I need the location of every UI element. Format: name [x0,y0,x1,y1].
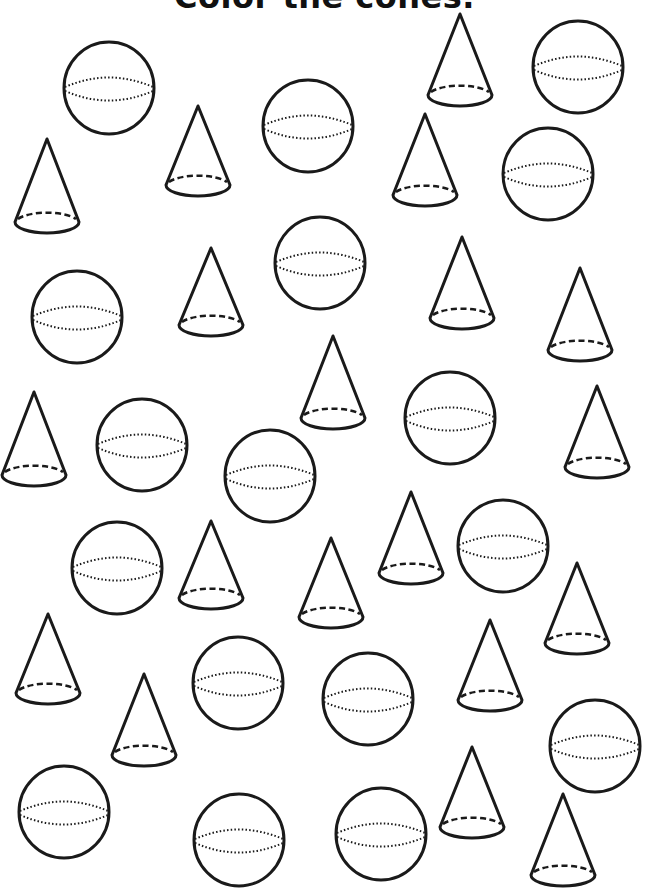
sphere-shape[interactable] [193,637,283,729]
cone-shape[interactable] [2,392,66,486]
cone-shape[interactable] [179,521,243,609]
sphere-shape[interactable] [72,522,162,614]
cone-shape[interactable] [548,268,612,361]
sphere-shape[interactable] [194,794,284,886]
cone-shape[interactable] [531,794,595,886]
cone-shape[interactable] [440,747,504,838]
sphere-shape[interactable] [19,766,109,858]
sphere-shape[interactable] [550,700,640,792]
cone-shape[interactable] [179,248,243,336]
cone-shape[interactable] [15,139,79,233]
sphere-shape[interactable] [458,500,548,592]
sphere-shape[interactable] [405,372,495,464]
sphere-shape[interactable] [263,80,353,172]
cone-shape[interactable] [428,14,492,106]
sphere-shape[interactable] [225,430,315,522]
sphere-shape[interactable] [275,217,365,309]
cone-shape[interactable] [565,386,629,478]
cone-shape[interactable] [545,563,609,654]
sphere-shape[interactable] [503,128,593,220]
sphere-shape[interactable] [336,788,426,880]
cone-shape[interactable] [112,674,176,766]
cone-shape[interactable] [379,492,443,584]
cone-shape[interactable] [16,614,80,704]
sphere-shape[interactable] [97,399,187,491]
shapes-canvas [0,0,649,894]
cone-shape[interactable] [301,336,365,429]
sphere-shape[interactable] [64,42,154,134]
cone-shape[interactable] [430,237,494,329]
cone-shape[interactable] [299,538,363,628]
cone-shape[interactable] [458,620,522,711]
sphere-shape[interactable] [323,653,413,745]
cone-shape[interactable] [166,106,230,196]
sphere-shape[interactable] [32,271,122,363]
sphere-shape[interactable] [533,21,623,113]
cone-shape[interactable] [393,114,457,206]
